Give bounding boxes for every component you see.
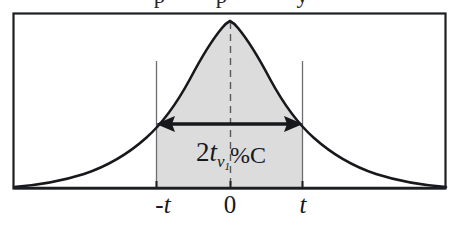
x-tick-label-zero: 0: [206, 192, 254, 217]
interval-label-variable: t: [209, 137, 217, 167]
x-tick-label-positive-t: t: [279, 192, 327, 217]
interval-label-suffix: %C: [230, 142, 266, 168]
interval-label-subscript-nu: ν: [217, 152, 225, 171]
t-distribution-figure: p p y: [0, 0, 462, 227]
interval-label-lead: 2: [196, 137, 210, 167]
interval-label-subscript: ν1: [217, 152, 230, 171]
interval-width-label: 2tν1%C: [0, 139, 462, 172]
x-tick-label-negative-t: -t: [139, 192, 187, 217]
x-axis: [14, 181, 445, 188]
